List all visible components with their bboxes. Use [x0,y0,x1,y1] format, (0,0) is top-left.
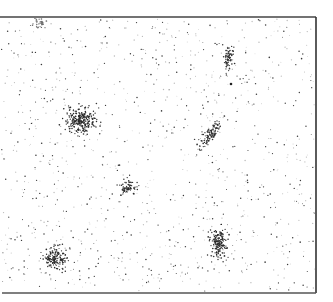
background-dot [67,89,68,90]
background-dot [291,59,292,60]
cluster-dot [64,254,66,256]
cluster-dot [208,129,209,130]
background-dot [311,87,312,88]
cluster-dot [67,119,68,120]
cluster-dot [36,26,37,27]
background-dot [59,244,61,246]
background-dot [134,102,135,103]
background-dot [56,225,57,226]
cluster-dot [99,125,101,127]
background-dot [28,225,29,226]
background-dot [188,154,189,155]
background-dot [97,220,98,221]
background-dot [232,59,233,60]
background-dot [185,274,186,275]
background-dot [44,197,45,198]
background-dot [32,52,34,54]
background-dot [246,269,247,270]
background-dot [81,243,82,244]
cluster-dot [215,230,216,231]
cluster-dot [92,118,94,120]
background-dot [106,42,107,43]
background-dot [65,105,66,106]
background-dot [79,255,80,256]
background-dot [140,232,141,233]
cluster-dot [212,133,213,134]
background-dot [147,183,148,184]
background-dot [56,110,57,111]
background-dot [247,215,248,216]
background-dot [255,83,256,84]
background-dot [59,226,60,227]
background-dot [189,182,190,183]
cluster-dot [225,57,226,58]
background-dot [8,217,9,218]
background-dot [35,52,36,53]
background-dot [203,230,204,231]
background-dot [311,194,312,195]
background-dot [216,44,217,45]
background-dot [145,259,146,260]
background-dot [216,160,217,161]
background-dot [142,285,143,286]
background-dot [150,180,151,181]
background-dot [239,78,241,80]
background-dot [190,78,191,79]
background-dot [145,50,146,51]
background-dot [150,74,152,76]
background-dot [127,21,128,22]
background-dot [216,102,217,103]
cluster-dot [227,232,228,233]
background-dot [221,36,222,37]
background-dot [160,121,161,122]
cluster-dot [70,126,71,127]
background-dot [79,279,80,280]
background-dot [129,253,130,254]
background-dot [223,201,224,202]
background-dot [211,226,212,227]
background-dot [1,49,2,50]
background-dot [277,170,278,171]
background-dot [170,199,171,200]
background-dot [36,198,38,200]
cluster-dot [79,122,81,124]
background-dot [181,217,182,218]
background-dot [172,266,173,267]
background-dot [22,189,23,190]
background-dot [35,119,36,120]
background-dot [18,269,19,270]
background-dot [272,61,273,62]
cluster-dot [56,262,57,263]
background-dot [198,196,199,197]
background-dot [282,246,283,247]
background-dot [183,229,184,230]
background-dot [99,133,101,135]
background-dot [173,266,174,267]
background-dot [64,248,65,249]
cluster-dot [208,140,209,141]
cluster-dot [54,245,55,246]
background-dot [144,113,145,114]
background-dot [287,257,288,258]
cluster-dot [85,121,86,122]
background-dot [278,64,279,65]
background-dot [236,240,237,241]
background-dot [240,239,241,240]
background-dot [35,169,36,170]
background-dot [24,189,25,190]
background-dot [166,194,167,195]
background-dot [7,244,8,245]
background-dot [171,132,172,133]
background-dot [198,52,199,53]
background-dot [15,30,16,31]
cluster-dot [57,245,59,247]
background-dot [79,270,81,272]
background-dot [214,43,215,44]
background-dot [218,272,219,273]
background-dot [145,53,146,54]
background-dot [307,31,308,32]
background-dot [2,281,3,282]
background-dot [245,50,246,51]
background-dot [284,268,285,269]
background-dot [91,149,92,150]
